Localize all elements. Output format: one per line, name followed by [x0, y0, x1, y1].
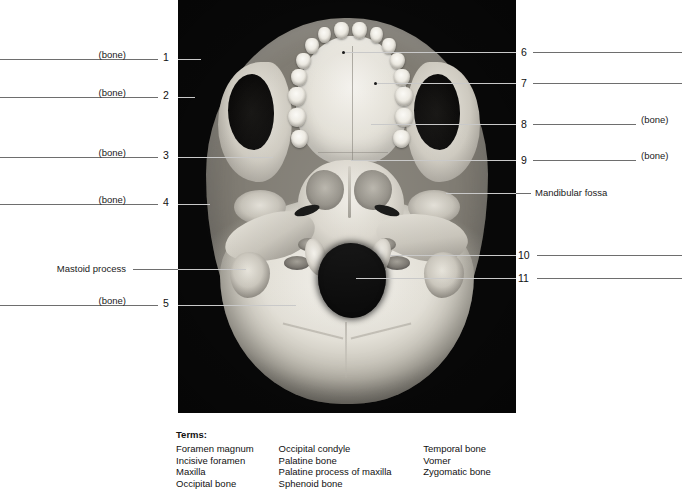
label-3-text: (bone) [58, 148, 126, 158]
leader-segment-mastoid [178, 269, 246, 270]
leader-dot-6 [342, 51, 345, 54]
label-mandibular-fossa: Mandibular fossa [535, 188, 607, 198]
label-6-number: 6 [521, 47, 527, 58]
term-item: Palatine process of maxilla [279, 466, 424, 478]
term-item: Foramen magnum [176, 443, 279, 455]
label-1-number: 1 [163, 52, 169, 63]
leader-segment-5 [178, 305, 296, 306]
leader-segment-2 [178, 97, 195, 98]
terms-column-3: Temporal bone Vomer Zygomatic bone [423, 443, 516, 489]
label-7-number: 7 [521, 78, 527, 89]
label-9-number: 9 [521, 155, 527, 166]
term-item: Zygomatic bone [423, 466, 516, 478]
label-3-number: 3 [163, 150, 169, 161]
leader-dot-7 [374, 82, 377, 85]
leader-segment-8 [371, 124, 516, 125]
term-item: Temporal bone [423, 443, 516, 455]
leader-line-9 [533, 160, 636, 161]
leader-line-8 [533, 124, 636, 125]
leader-line-11 [537, 278, 682, 279]
term-item: Maxilla [176, 466, 279, 478]
label-mastoid-process: Mastoid process [40, 264, 126, 274]
label-5-number: 5 [163, 298, 169, 309]
terms-column-1: Foramen magnum Incisive foramen Maxilla … [176, 443, 279, 489]
term-item: Occipital bone [176, 478, 279, 489]
leader-segment-11 [356, 278, 516, 279]
leader-line-10 [537, 255, 682, 256]
label-2-text: (bone) [58, 88, 126, 98]
terms-column-2: Occipital condyle Palatine bone Palatine… [279, 443, 424, 489]
leader-segment-3 [178, 157, 273, 158]
leader-segment-fossa [446, 193, 516, 194]
leader-line-mastoid [133, 269, 178, 270]
leader-segment-10 [390, 255, 516, 256]
label-4-number: 4 [163, 197, 169, 208]
leader-segment-4 [178, 204, 210, 205]
leader-segment-7 [375, 83, 516, 84]
term-item: Occipital condyle [279, 443, 424, 455]
term-item: Palatine bone [279, 455, 424, 467]
label-4-text: (bone) [58, 195, 126, 205]
label-8-number: 8 [521, 119, 527, 130]
leader-segment-1 [178, 59, 201, 60]
leader-segment-6 [343, 52, 516, 53]
term-item: Sphenoid bone [279, 478, 424, 489]
terms-heading: Terms: [176, 429, 516, 441]
label-11-number: 11 [518, 273, 529, 284]
label-8-text: (bone) [641, 115, 668, 125]
label-10-number: 10 [518, 250, 530, 261]
leader-segment-9 [351, 160, 516, 161]
leader-line-fossa [516, 193, 531, 194]
skull-photograph [178, 0, 516, 413]
photo-vignette [178, 0, 516, 413]
terms-section: Terms: Foramen magnum Incisive foramen M… [176, 429, 516, 489]
label-2-number: 2 [163, 90, 169, 101]
leader-line-6 [533, 52, 682, 53]
label-5-text: (bone) [58, 296, 126, 306]
leader-line-7 [533, 83, 682, 84]
term-item: Incisive foramen [176, 455, 279, 467]
term-item: Vomer [423, 455, 516, 467]
label-1-text: (bone) [58, 50, 126, 60]
label-9-text: (bone) [641, 151, 668, 161]
